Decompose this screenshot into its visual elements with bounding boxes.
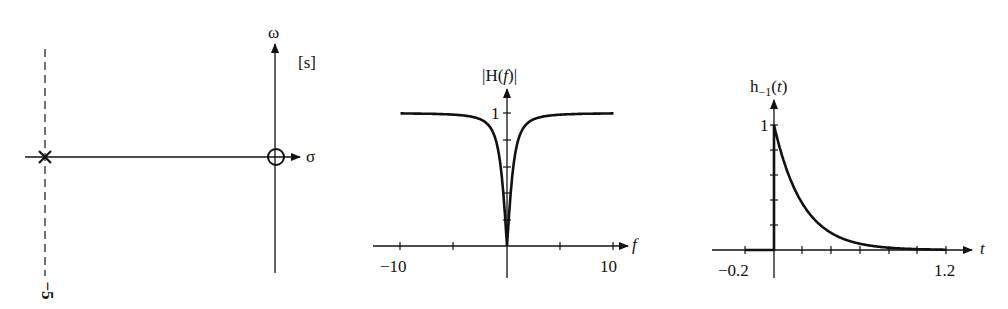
step-ylabel-main: h bbox=[750, 77, 759, 96]
step-ylabel-sub: −1 bbox=[759, 85, 772, 99]
step-ytick-1: 1 bbox=[760, 117, 769, 134]
step-xtick-right: 1.2 bbox=[934, 262, 955, 279]
s-plane-diagram bbox=[25, 44, 300, 276]
step-response-curve bbox=[745, 125, 946, 250]
magnitude-xlabel: f bbox=[632, 236, 637, 253]
magnitude-xtick-right: 10 bbox=[600, 258, 617, 275]
plane-label-text: [s] bbox=[298, 53, 316, 72]
step-ylabel: h−1(t) bbox=[750, 78, 787, 98]
magnitude-ylabel: |H(f)| bbox=[482, 67, 517, 84]
step-xtick-left: −0.2 bbox=[718, 262, 749, 279]
step-response-plot bbox=[712, 100, 972, 278]
magnitude-xtick-left: −10 bbox=[380, 258, 407, 275]
omega-axis-label: ω bbox=[268, 24, 279, 41]
figure-canvas bbox=[0, 0, 1008, 309]
pole-tick-label: −5 bbox=[39, 281, 56, 299]
sigma-axis-label: σ bbox=[306, 148, 315, 165]
plane-label: [s] bbox=[298, 54, 316, 71]
magnitude-ytick-1: 1 bbox=[491, 105, 500, 122]
magnitude-plot bbox=[373, 89, 628, 278]
step-xlabel: t bbox=[980, 240, 985, 257]
